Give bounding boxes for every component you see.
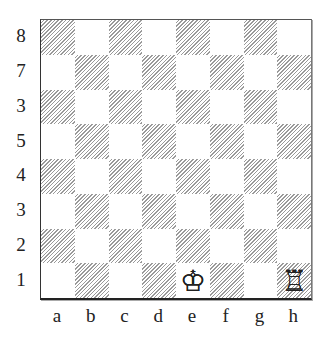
square-h2[interactable] xyxy=(277,229,311,264)
file-label: e xyxy=(175,303,209,329)
square-f7[interactable] xyxy=(210,55,244,90)
square-a6[interactable] xyxy=(41,90,75,125)
square-h6[interactable] xyxy=(277,90,311,125)
chess-board: ♔♖ xyxy=(40,19,312,300)
square-d4[interactable] xyxy=(142,159,176,194)
square-d1[interactable] xyxy=(142,263,176,298)
square-h8[interactable] xyxy=(277,20,311,55)
square-c6[interactable] xyxy=(109,90,143,125)
square-d8[interactable] xyxy=(142,20,176,55)
square-e8[interactable] xyxy=(176,20,210,55)
square-g7[interactable] xyxy=(244,55,278,90)
square-h5[interactable] xyxy=(277,124,311,159)
square-c2[interactable] xyxy=(109,229,143,264)
square-c4[interactable] xyxy=(109,159,143,194)
square-e6[interactable] xyxy=(176,90,210,125)
square-g3[interactable] xyxy=(244,194,278,229)
file-label: a xyxy=(40,303,74,329)
square-d6[interactable] xyxy=(142,90,176,125)
square-a2[interactable] xyxy=(41,229,75,264)
square-b5[interactable] xyxy=(75,124,109,159)
square-a8[interactable] xyxy=(41,20,75,55)
square-a1[interactable] xyxy=(41,263,75,298)
square-g1[interactable] xyxy=(244,263,278,298)
square-e5[interactable] xyxy=(176,124,210,159)
rank-label: 8 xyxy=(10,19,32,54)
file-label: b xyxy=(74,303,108,329)
rank-label: 4 xyxy=(10,158,32,193)
square-b3[interactable] xyxy=(75,194,109,229)
square-b1[interactable] xyxy=(75,263,109,298)
rank-label: 2 xyxy=(10,228,32,263)
square-h1[interactable]: ♖ xyxy=(277,263,311,298)
square-e7[interactable] xyxy=(176,55,210,90)
file-label: c xyxy=(108,303,142,329)
file-label: g xyxy=(243,303,277,329)
square-e3[interactable] xyxy=(176,194,210,229)
square-g5[interactable] xyxy=(244,124,278,159)
white-rook-icon[interactable]: ♖ xyxy=(281,267,307,296)
square-e1[interactable]: ♔ xyxy=(176,263,210,298)
square-f2[interactable] xyxy=(210,229,244,264)
square-b6[interactable] xyxy=(75,90,109,125)
square-d3[interactable] xyxy=(142,194,176,229)
square-h4[interactable] xyxy=(277,159,311,194)
file-labels: a b c d e f g h xyxy=(40,303,310,329)
square-e4[interactable] xyxy=(176,159,210,194)
square-b4[interactable] xyxy=(75,159,109,194)
square-c7[interactable] xyxy=(109,55,143,90)
square-b2[interactable] xyxy=(75,229,109,264)
square-e2[interactable] xyxy=(176,229,210,264)
square-d7[interactable] xyxy=(142,55,176,90)
square-f6[interactable] xyxy=(210,90,244,125)
square-c3[interactable] xyxy=(109,194,143,229)
rank-label: 5 xyxy=(10,123,32,158)
square-f5[interactable] xyxy=(210,124,244,159)
rank-label: 7 xyxy=(10,54,32,89)
square-d2[interactable] xyxy=(142,229,176,264)
square-c1[interactable] xyxy=(109,263,143,298)
square-g4[interactable] xyxy=(244,159,278,194)
square-b7[interactable] xyxy=(75,55,109,90)
square-a5[interactable] xyxy=(41,124,75,159)
square-h3[interactable] xyxy=(277,194,311,229)
square-f8[interactable] xyxy=(210,20,244,55)
file-label: f xyxy=(209,303,243,329)
square-a4[interactable] xyxy=(41,159,75,194)
square-c5[interactable] xyxy=(109,124,143,159)
file-label: h xyxy=(276,303,310,329)
rank-label: 3 xyxy=(10,89,32,124)
square-a7[interactable] xyxy=(41,55,75,90)
rank-labels: 8 7 3 5 4 3 2 1 xyxy=(10,19,32,297)
square-b8[interactable] xyxy=(75,20,109,55)
square-d5[interactable] xyxy=(142,124,176,159)
square-f3[interactable] xyxy=(210,194,244,229)
square-g2[interactable] xyxy=(244,229,278,264)
rank-label: 3 xyxy=(10,193,32,228)
square-h7[interactable] xyxy=(277,55,311,90)
rank-label: 1 xyxy=(10,262,32,297)
square-c8[interactable] xyxy=(109,20,143,55)
file-label: d xyxy=(141,303,175,329)
white-king-icon[interactable]: ♔ xyxy=(180,267,206,296)
square-f4[interactable] xyxy=(210,159,244,194)
square-g8[interactable] xyxy=(244,20,278,55)
square-g6[interactable] xyxy=(244,90,278,125)
square-a3[interactable] xyxy=(41,194,75,229)
square-f1[interactable] xyxy=(210,263,244,298)
